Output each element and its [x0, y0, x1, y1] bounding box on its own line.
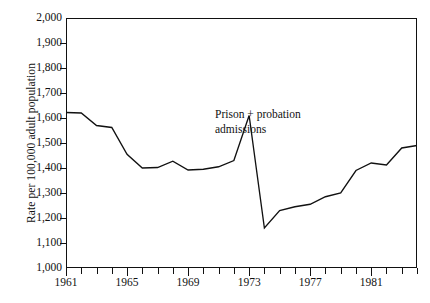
x-axis-tick-mark: [264, 268, 265, 274]
x-axis-tick-mark: [158, 268, 159, 274]
y-axis-tick-label: 1,900: [2, 37, 62, 49]
x-axis-tick-mark: [402, 268, 403, 274]
y-axis-tick-label: 1,100: [2, 237, 62, 249]
x-axis-tick-mark: [280, 268, 281, 274]
x-axis-tick-label: 1961: [36, 277, 96, 289]
x-axis-tick-label: 1965: [97, 277, 157, 289]
x-axis-tick-mark: [325, 268, 326, 274]
x-axis-tick-mark: [341, 268, 342, 274]
y-axis-tick-label: 1,000: [2, 262, 62, 274]
annotation-prison-probation-admissions: Prison + probation admissions: [215, 107, 350, 136]
x-axis-tick-mark: [81, 268, 82, 274]
x-axis-tick-mark: [219, 268, 220, 274]
x-axis-tick-label: 1973: [219, 277, 279, 289]
y-axis-tick-label: 2,000: [2, 12, 62, 24]
chart-container: Rate per 100,000 adult population 1,0001…: [0, 0, 430, 303]
x-axis-tick-mark: [386, 268, 387, 274]
y-axis-tick-label: 1,700: [2, 87, 62, 99]
x-axis-tick-mark: [97, 268, 98, 274]
x-axis-tick-label: 1969: [158, 277, 218, 289]
plot-area-frame: [66, 18, 417, 268]
x-axis-tick-mark: [203, 268, 204, 274]
x-axis-tick-mark: [142, 268, 143, 274]
x-axis-tick-mark: [356, 268, 357, 274]
x-axis-tick-mark: [112, 268, 113, 274]
y-axis-tick-label: 1,200: [2, 212, 62, 224]
x-axis-tick-mark: [234, 268, 235, 274]
y-axis-tick-label: 1,500: [2, 137, 62, 149]
x-axis-tick-label: 1981: [341, 277, 401, 289]
y-axis-tick-label: 1,800: [2, 62, 62, 74]
y-axis-tick-label: 1,400: [2, 162, 62, 174]
x-axis-tick-mark: [295, 268, 296, 274]
x-axis-tick-mark: [249, 268, 250, 276]
x-axis-tick-mark: [371, 268, 372, 276]
x-axis-tick-mark: [127, 268, 128, 276]
x-axis-tick-mark: [173, 268, 174, 274]
x-axis-tick-mark: [66, 268, 67, 276]
y-axis-tick-label: 1,300: [2, 187, 62, 199]
x-axis-tick-mark: [417, 268, 418, 274]
x-axis-tick-mark: [188, 268, 189, 276]
x-axis-tick-mark: [310, 268, 311, 276]
y-axis-tick-label: 1,600: [2, 112, 62, 124]
x-axis-tick-label: 1977: [280, 277, 340, 289]
